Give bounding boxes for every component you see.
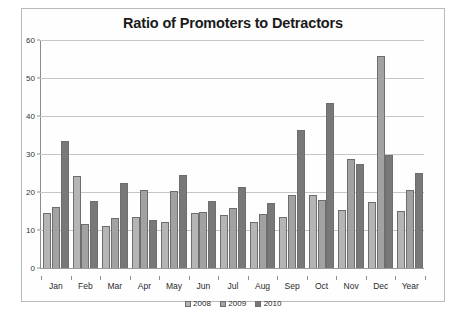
legend-item-2009[interactable]: 2009 bbox=[220, 299, 246, 308]
bar-2009-Dec[interactable] bbox=[377, 56, 385, 268]
bar-group bbox=[307, 40, 337, 268]
bar-2010-Jan[interactable] bbox=[61, 141, 69, 268]
x-axis-tick-label: May bbox=[166, 281, 182, 291]
x-axis-tick-mark bbox=[189, 276, 190, 280]
bar-2008-May[interactable] bbox=[161, 222, 169, 268]
bar-group bbox=[159, 40, 189, 268]
bars-layer bbox=[41, 40, 424, 268]
x-axis-tick-label: Feb bbox=[78, 281, 93, 291]
x-axis-tick-label: Mar bbox=[108, 281, 123, 291]
x-axis-tick-mark bbox=[100, 276, 101, 280]
bar-2009-Jan[interactable] bbox=[52, 207, 60, 268]
bar-2010-Aug[interactable] bbox=[267, 203, 275, 268]
bar-group bbox=[41, 40, 71, 268]
x-axis-tick-mark bbox=[130, 276, 131, 280]
y-axis-tick-mark bbox=[37, 116, 40, 117]
chart-legend: 200820092010 bbox=[22, 299, 444, 308]
x-axis-labels: JanFebMarAprMayJunJulAugSepOctNovDecYear bbox=[41, 281, 425, 295]
bar-2010-Jun[interactable] bbox=[208, 201, 216, 268]
bar-group bbox=[130, 40, 160, 268]
bar-2008-Feb[interactable] bbox=[73, 176, 81, 268]
bar-2008-Jul[interactable] bbox=[220, 215, 228, 268]
bar-2010-Oct[interactable] bbox=[326, 103, 334, 268]
y-axis-tick-label: 20 bbox=[26, 188, 35, 197]
bar-2009-Nov[interactable] bbox=[347, 159, 355, 268]
bar-2010-Mar[interactable] bbox=[120, 183, 128, 268]
bar-2009-Apr[interactable] bbox=[140, 190, 148, 268]
bar-group bbox=[100, 40, 130, 268]
x-axis-tick-label: Jul bbox=[228, 281, 239, 291]
bar-2008-Year[interactable] bbox=[397, 211, 405, 268]
bar-2009-Mar[interactable] bbox=[111, 218, 119, 268]
x-axis-tick-label: Jan bbox=[49, 281, 63, 291]
x-axis-tick-label: Jun bbox=[197, 281, 211, 291]
bar-2008-Nov[interactable] bbox=[338, 210, 346, 268]
bar-2008-Aug[interactable] bbox=[250, 222, 258, 268]
bar-group bbox=[366, 40, 396, 268]
y-axis-tick-mark bbox=[37, 154, 40, 155]
x-axis-tick-mark bbox=[248, 276, 249, 280]
x-axis-tick-label: Dec bbox=[373, 281, 388, 291]
bar-2010-May[interactable] bbox=[179, 175, 187, 268]
bar-group bbox=[277, 40, 307, 268]
x-axis-tick-mark bbox=[277, 276, 278, 280]
bar-2009-Jul[interactable] bbox=[229, 208, 237, 268]
bar-2009-Sep[interactable] bbox=[288, 195, 296, 268]
bar-2010-Nov[interactable] bbox=[356, 164, 364, 269]
bar-2009-Aug[interactable] bbox=[259, 214, 267, 268]
x-axis-tick-mark bbox=[366, 276, 367, 280]
x-axis-tick-mark bbox=[41, 276, 42, 280]
y-axis-tick-mark bbox=[37, 268, 40, 269]
bar-2008-Jan[interactable] bbox=[43, 213, 51, 268]
x-axis-tick-mark bbox=[425, 276, 426, 280]
legend-swatch-icon bbox=[185, 301, 191, 307]
legend-swatch-icon bbox=[220, 301, 226, 307]
y-axis-tick-mark bbox=[37, 40, 40, 41]
bar-group bbox=[218, 40, 248, 268]
bar-group bbox=[336, 40, 366, 268]
y-axis-tick-label: 40 bbox=[26, 112, 35, 121]
y-axis-tick-mark bbox=[37, 78, 40, 79]
x-axis-tick-label: Aug bbox=[255, 281, 270, 291]
bar-2009-Feb[interactable] bbox=[81, 224, 89, 268]
bar-2010-Feb[interactable] bbox=[90, 201, 98, 268]
bar-2008-Mar[interactable] bbox=[102, 226, 110, 268]
legend-item-2010[interactable]: 2010 bbox=[255, 299, 281, 308]
x-axis-tick-mark bbox=[218, 276, 219, 280]
y-axis-tick-mark bbox=[37, 230, 40, 231]
bar-2010-Dec[interactable] bbox=[385, 155, 393, 268]
y-axis-tick-label: 60 bbox=[26, 36, 35, 45]
x-axis-tick-label: Sep bbox=[285, 281, 300, 291]
bar-2009-Jun[interactable] bbox=[199, 212, 207, 268]
bar-group bbox=[189, 40, 219, 268]
plot-area: 0102030405060 bbox=[40, 40, 424, 268]
bar-2008-Dec[interactable] bbox=[368, 202, 376, 268]
y-axis-tick-label: 30 bbox=[26, 150, 35, 159]
y-axis-tick-label: 50 bbox=[26, 74, 35, 83]
x-axis-tick-mark bbox=[336, 276, 337, 280]
legend-label: 2008 bbox=[193, 299, 211, 308]
bar-2008-Oct[interactable] bbox=[309, 195, 317, 268]
x-axis-tick-label: Nov bbox=[344, 281, 359, 291]
bar-2008-Sep[interactable] bbox=[279, 217, 287, 268]
bar-2008-Jun[interactable] bbox=[191, 213, 199, 268]
bar-2009-May[interactable] bbox=[170, 191, 178, 268]
x-axis-tick-mark bbox=[71, 276, 72, 280]
bar-group bbox=[71, 40, 101, 268]
bar-2009-Year[interactable] bbox=[406, 190, 414, 268]
x-axis-tick-mark bbox=[307, 276, 308, 280]
bar-2010-Sep[interactable] bbox=[297, 130, 305, 268]
bar-2010-Apr[interactable] bbox=[149, 220, 157, 268]
y-axis-tick-mark bbox=[37, 192, 40, 193]
bar-2010-Jul[interactable] bbox=[238, 187, 246, 268]
x-axis-tick-label: Year bbox=[402, 281, 419, 291]
legend-label: 2009 bbox=[228, 299, 246, 308]
bar-2010-Year[interactable] bbox=[415, 173, 423, 268]
x-axis-tick-label: Apr bbox=[138, 281, 151, 291]
gridline bbox=[40, 268, 424, 269]
legend-label: 2010 bbox=[264, 299, 282, 308]
bar-2009-Oct[interactable] bbox=[318, 200, 326, 268]
legend-item-2008[interactable]: 2008 bbox=[185, 299, 211, 308]
legend-swatch-icon bbox=[255, 301, 261, 307]
bar-2008-Apr[interactable] bbox=[132, 217, 140, 268]
